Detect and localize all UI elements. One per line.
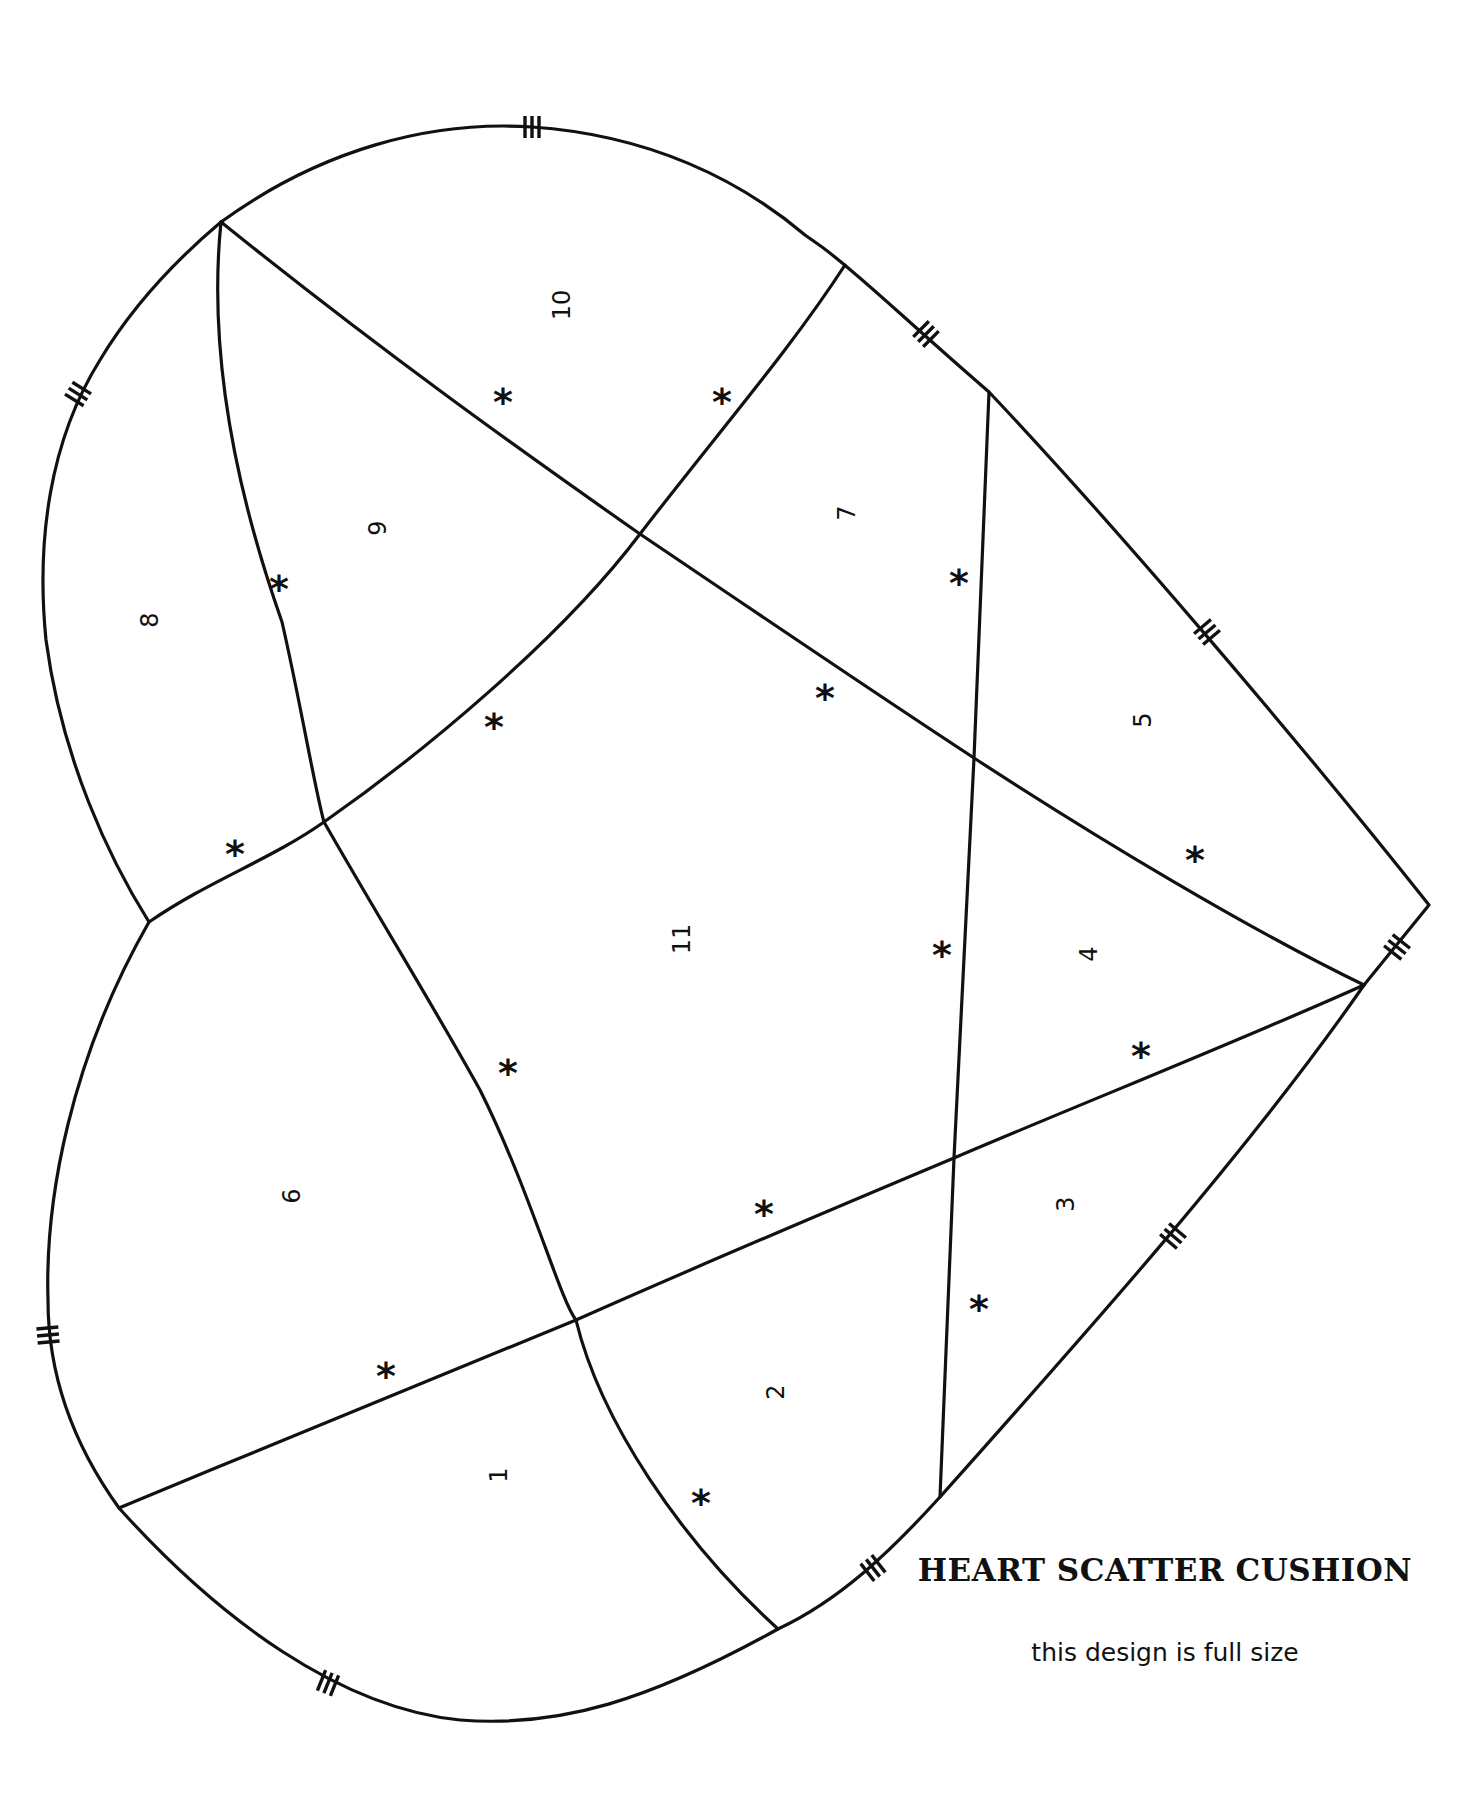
alignment-ticks [36,116,1410,1696]
pattern-subtitle: this design is full size [905,1638,1425,1667]
asterisk-icon: * [949,561,969,605]
triple-hash-icon [1160,1224,1186,1249]
piece-label-2: 2 [762,1384,790,1399]
piece-label-8: 8 [136,612,164,627]
seam-curve-upper [149,265,845,922]
pattern-title: HEART SCATTER CUSHION [905,1552,1425,1588]
piece-label-11: 11 [668,924,696,955]
piece-label-6: 6 [278,1188,306,1203]
asterisk-icon: * [1131,1034,1151,1078]
triple-hash-icon [36,1327,59,1343]
heart-pattern-diagram: *************** 1234567891011 [0,0,1465,1808]
triple-hash-icon [1194,620,1220,645]
triple-hash-icon [861,1555,886,1581]
asterisk-icon: * [691,1481,711,1525]
asterisk-icon: * [269,567,289,611]
piece-label-4: 4 [1075,946,1103,961]
asterisk-icon: * [498,1051,518,1095]
piece-label-10: 10 [548,290,576,321]
asterisk-icon: * [712,380,732,424]
heart-outline [43,126,1429,1721]
piece-label-1: 1 [485,1467,513,1482]
seam-marks: *************** [225,380,1205,1525]
piece-label-9: 9 [364,520,392,535]
piece-label-5: 5 [1129,712,1157,727]
asterisk-icon: * [815,676,835,720]
asterisk-icon: * [376,1354,396,1398]
asterisk-icon: * [969,1287,989,1331]
asterisk-icon: * [932,933,952,977]
asterisk-icon: * [484,705,504,749]
asterisk-icon: * [1185,838,1205,882]
piece-label-3: 3 [1052,1196,1080,1211]
asterisk-icon: * [225,832,245,876]
piece-labels: 1234567891011 [136,290,1157,1483]
asterisk-icon: * [754,1192,774,1236]
asterisk-icon: * [493,380,513,424]
piece-label-7: 7 [833,505,861,520]
